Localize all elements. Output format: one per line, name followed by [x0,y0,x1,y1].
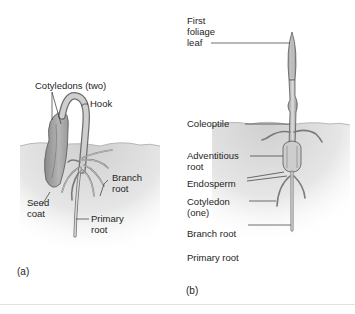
label-endosperm: Endosperm [187,179,236,190]
label-primary-root-a-line1: Primary [91,214,124,225]
label-hook: Hook [90,99,112,110]
seedling-diagram: Cotyledons (two) Hook Branch root Seed c… [0,0,355,314]
label-cotyledon-one-line2: (one) [187,208,209,219]
label-first-foliage-leaf-line3: leaf [187,38,202,49]
label-cotyledons-two: Cotyledons (two) [35,81,106,92]
label-branch-root-b: Branch root [187,229,236,240]
label-cotyledon-one-line1: Cotyledon [187,197,230,208]
panel-label-b: (b) [186,285,198,296]
label-seed-coat-line2: coat [27,209,45,220]
label-adventitious-root-line2: root [187,162,203,173]
label-first-foliage-leaf-line2: foliage [187,27,215,38]
label-adventitious-root-line1: Adventitious [187,151,239,162]
label-first-foliage-leaf-line1: First [187,16,205,27]
label-branch-root-a-line1: Branch [112,173,142,184]
panel-label-a: (a) [17,266,29,277]
label-branch-root-a-line2: root [112,184,128,195]
label-coleoptile: Coleoptile [187,119,229,130]
diagram-artwork [0,0,355,314]
label-seed-coat-line1: Seed [27,198,49,209]
bottom-divider [0,304,355,305]
label-primary-root-a-line2: root [91,225,107,236]
label-primary-root-b: Primary root [187,253,239,264]
